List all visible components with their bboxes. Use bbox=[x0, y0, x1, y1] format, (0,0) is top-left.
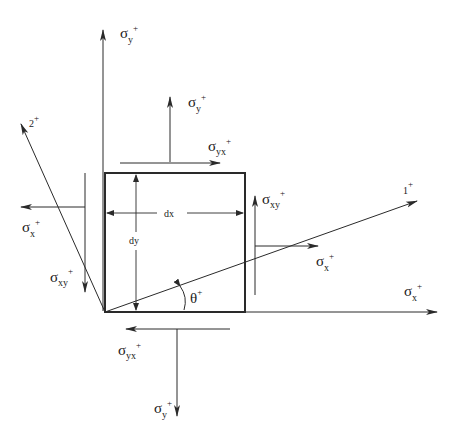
stress-element-diagram: σy+ σx+ 1+ 2+ dx dy θ+ σy+ bbox=[0, 0, 461, 441]
sigma-y-bottom-label: σy+ bbox=[154, 398, 172, 420]
sigma-xy-left-label: σxy+ bbox=[50, 266, 73, 288]
sigma-x-axis-label: σx+ bbox=[404, 281, 422, 303]
stress-element-box bbox=[105, 173, 245, 312]
sigma-y-top-label: σy+ bbox=[188, 92, 206, 114]
dy-label: dy bbox=[129, 235, 139, 246]
principal-axis-2-label: 2+ bbox=[29, 113, 39, 129]
principal-axis-1-label: 1+ bbox=[403, 179, 413, 196]
sigma-y-axis-label: σy+ bbox=[120, 23, 138, 45]
theta-angle-arc bbox=[180, 286, 185, 310]
sigma-x-right-label: σx+ bbox=[316, 251, 334, 273]
sigma-xy-right-label: σxy+ bbox=[262, 188, 285, 210]
sigma-yx-bottom-label: σyx+ bbox=[118, 340, 141, 361]
theta-label: θ+ bbox=[190, 287, 202, 306]
principal-axis-1-arrow bbox=[105, 201, 417, 312]
sigma-yx-top-label: σyx+ bbox=[208, 136, 231, 157]
dx-label: dx bbox=[164, 208, 174, 219]
sigma-x-left-label: σx+ bbox=[22, 217, 40, 239]
